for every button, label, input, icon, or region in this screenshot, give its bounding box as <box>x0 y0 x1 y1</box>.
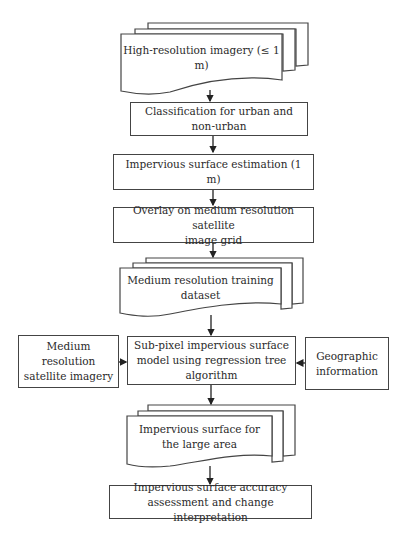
node-label-line1: Geographic <box>316 349 378 364</box>
node-label-line1: Classification for urban and <box>145 104 293 119</box>
flowchart-connectors <box>0 0 407 539</box>
node-label-line2: assessment and change interpretation <box>114 495 307 525</box>
node-label: Medium resolution training dataset <box>120 273 281 303</box>
node-label-line2: information <box>316 364 378 379</box>
node-impervious-estimation: Impervious surface estimation (1 m) <box>113 154 314 190</box>
node-classification: Classification for urban and non-urban <box>130 102 308 136</box>
node-label-line3: algorithm <box>186 368 238 383</box>
node-geographic-info: Geographic information <box>305 337 389 390</box>
node-medium-res-imagery: Medium resolution satellite imagery <box>18 335 119 388</box>
node-label: Impervious surface estimation (1 m) <box>118 157 309 187</box>
node-label-line1: Medium resolution <box>23 339 114 369</box>
node-label-line2: satellite imagery <box>24 369 113 384</box>
node-label-line2: model using regression tree <box>137 353 287 368</box>
node-label-line2: the large area <box>162 437 237 452</box>
node-overlay: Overlay on medium resolution satellite i… <box>113 207 314 243</box>
node-label-line2: image grid <box>185 233 243 248</box>
node-large-area: Impervious surface for the large area <box>127 420 272 454</box>
node-label-line1: Impervious surface accuracy <box>134 480 288 495</box>
node-label: High-resolution imagery (≤ 1 m) <box>121 43 282 73</box>
node-training-dataset: Medium resolution training dataset <box>120 272 281 304</box>
node-high-res-imagery: High-resolution imagery (≤ 1 m) <box>121 40 282 76</box>
node-label-line1: Impervious surface for <box>139 422 260 437</box>
node-label-line2: non-urban <box>192 119 247 134</box>
node-accuracy-assessment: Impervious surface accuracy assessment a… <box>109 485 312 519</box>
node-subpixel-model: Sub-pixel impervious surface model using… <box>127 336 296 385</box>
node-label-line1: Sub-pixel impervious surface <box>134 338 289 353</box>
node-label-line1: Overlay on medium resolution satellite <box>118 203 309 233</box>
